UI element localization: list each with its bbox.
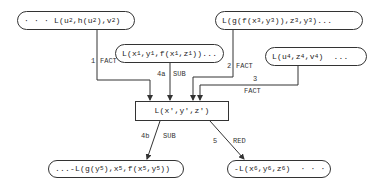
edge-4b-rule-label: SUB: [163, 133, 176, 140]
edge-3-rule-label: FACT: [244, 88, 261, 95]
node-n1: · · · L(u2,h(u2),v2): [17, 11, 135, 30]
edge-2-step-label: 2: [227, 63, 231, 70]
node-center: L(x',y',z'): [135, 101, 229, 121]
edge-4b-step-label: 4b: [141, 133, 149, 140]
node-n3: L(g(f(x3,y3)),z3,y3)...: [215, 11, 363, 30]
edge-4b-sub: [147, 121, 160, 159]
edge-5-rule-label: RED: [233, 138, 246, 145]
edge-4a-step-label: 4a: [157, 71, 165, 78]
edge-2-rule-label: FACT: [236, 63, 253, 70]
node-n6: -L(x6,y6,z6) · · ·: [227, 160, 331, 178]
edge-1-rule-label: FACT: [100, 58, 117, 65]
node-n5: ...-L(g(y5),x5,f(x5,y5)): [48, 160, 184, 178]
node-n4: L(u4,z4,v4) ...: [265, 47, 367, 66]
node-n2: L(x1,y1,f(x1,z1))...: [115, 44, 224, 63]
edge-3-step-label: 3: [253, 76, 257, 83]
edge-5-step-label: 5: [213, 138, 217, 145]
edge-1-step-label: 1: [91, 58, 95, 65]
edge-1-fact: [97, 30, 150, 100]
edge-4a-rule-label: SUB: [173, 71, 186, 78]
